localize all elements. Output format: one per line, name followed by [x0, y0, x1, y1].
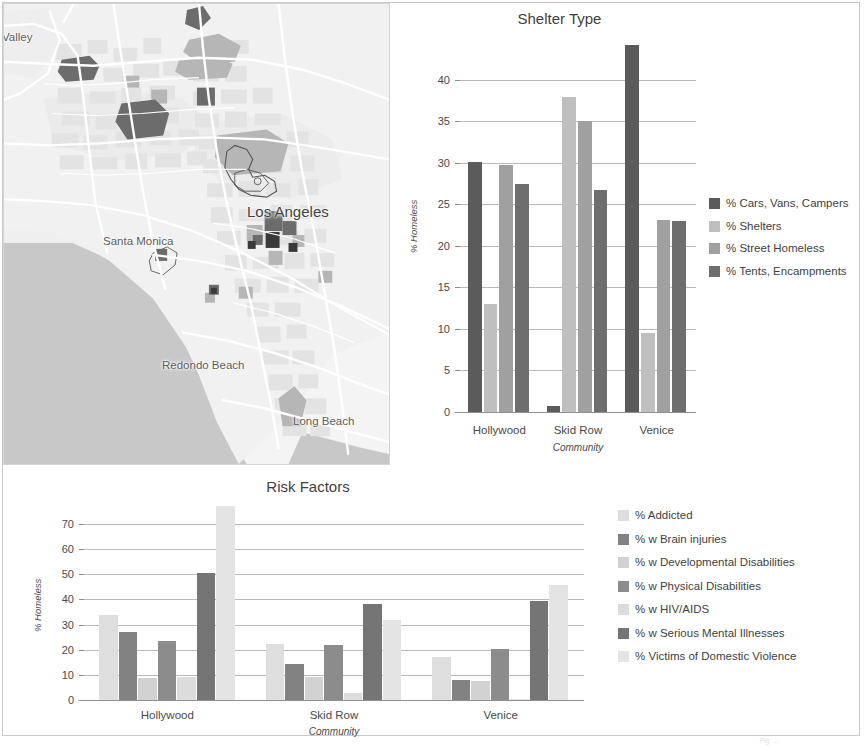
bar-risk-factors-1-3[interactable]: [324, 645, 343, 700]
legend-label: % w HIV/AIDS: [635, 604, 709, 616]
legend-swatch-icon: [618, 557, 629, 568]
legend-swatch-icon: [709, 221, 720, 232]
legend-label: % Victims of Domestic Violence: [635, 651, 796, 663]
map-panel[interactable]: Valley Los Angeles Santa Monica Redondo …: [3, 3, 390, 465]
bar-shelter-type-0-2[interactable]: [499, 165, 513, 412]
y-axis-tick: [455, 121, 460, 122]
bar-risk-factors-1-0[interactable]: [266, 644, 285, 700]
bar-risk-factors-1-6[interactable]: [383, 620, 402, 700]
bar-risk-factors-1-5[interactable]: [363, 604, 382, 700]
legend-label: % Shelters: [726, 221, 782, 233]
y-axis-tick: [455, 204, 460, 205]
bar-risk-factors-0-4[interactable]: [177, 677, 196, 700]
chart-shelter-type-title: Shelter Type: [397, 10, 722, 27]
legend-label: % Addicted: [635, 510, 693, 522]
bar-shelter-type-2-0[interactable]: [625, 45, 639, 412]
y-axis-tick: [79, 650, 84, 651]
y-axis-tick-label: 20: [418, 240, 450, 252]
y-axis-tick: [455, 80, 460, 81]
y-axis-tick: [455, 246, 460, 247]
legend-swatch-icon: [618, 651, 629, 662]
bar-risk-factors-0-6[interactable]: [216, 506, 235, 700]
chart-risk-factors-plot-area: 010203040506070HollywoodSkid RowVenice: [84, 504, 584, 700]
legend-item-risk-factors-6[interactable]: % Victims of Domestic Violence: [618, 651, 796, 663]
bar-risk-factors-2-6[interactable]: [549, 585, 568, 700]
y-axis-tick: [79, 675, 84, 676]
y-axis-tick: [79, 574, 84, 575]
bar-shelter-type-1-0[interactable]: [547, 406, 561, 412]
bar-risk-factors-2-5[interactable]: [530, 601, 549, 700]
y-axis-tick-label: 5: [418, 364, 450, 376]
chart-shelter-type-x-axis-label: Community: [460, 442, 696, 453]
y-axis-tick: [79, 625, 84, 626]
chart-shelter-type-legend: % Cars, Vans, Campers% Shelters% Street …: [709, 198, 849, 288]
y-axis-tick: [455, 163, 460, 164]
x-axis-category-label: Skid Row: [539, 424, 618, 436]
bar-shelter-type-2-2[interactable]: [657, 220, 671, 412]
bar-risk-factors-0-3[interactable]: [158, 641, 177, 700]
bar-shelter-type-1-3[interactable]: [594, 190, 608, 412]
legend-swatch-icon: [618, 581, 629, 592]
bar-shelter-type-1-1[interactable]: [562, 97, 576, 412]
bar-risk-factors-0-2[interactable]: [138, 678, 157, 700]
bar-risk-factors-0-1[interactable]: [119, 632, 138, 700]
bar-risk-factors-2-1[interactable]: [452, 680, 471, 700]
gridline: [84, 574, 584, 575]
bar-risk-factors-0-0[interactable]: [99, 615, 118, 700]
y-axis-tick-label: 0: [418, 406, 450, 418]
legend-item-risk-factors-0[interactable]: % Addicted: [618, 510, 796, 522]
legend-swatch-icon: [709, 243, 720, 254]
bar-risk-factors-0-5[interactable]: [197, 573, 216, 700]
legend-swatch-icon: [618, 604, 629, 615]
legend-swatch-icon: [618, 510, 629, 521]
chart-risk-factors-x-axis-label: Community: [84, 726, 584, 737]
y-axis-tick-label: 40: [418, 74, 450, 86]
bar-shelter-type-0-1[interactable]: [484, 304, 498, 412]
legend-label: % w Serious Mental Illnesses: [635, 628, 785, 640]
bar-shelter-type-1-2[interactable]: [578, 121, 592, 412]
y-axis-tick-label: 15: [418, 281, 450, 293]
legend-item-shelter-type-0[interactable]: % Cars, Vans, Campers: [709, 198, 849, 210]
legend-item-risk-factors-3[interactable]: % w Physical Disabilities: [618, 581, 796, 593]
bar-risk-factors-1-2[interactable]: [305, 677, 324, 700]
x-axis-line: [84, 700, 584, 701]
y-axis-tick-label: 60: [42, 543, 74, 555]
y-axis-tick-label: 70: [42, 518, 74, 530]
x-axis-category-label: Hollywood: [460, 424, 539, 436]
legend-item-shelter-type-3[interactable]: % Tents, Encampments: [709, 266, 849, 278]
y-axis-tick-label: 40: [42, 593, 74, 605]
chart-risk-factors-title: Risk Factors: [4, 478, 612, 495]
bar-shelter-type-2-3[interactable]: [672, 221, 686, 412]
legend-swatch-icon: [618, 628, 629, 639]
x-axis-line: [460, 412, 696, 413]
y-axis-tick-label: 0: [42, 694, 74, 706]
legend-label: % Street Homeless: [726, 243, 824, 255]
bar-risk-factors-2-4[interactable]: [510, 699, 529, 700]
legend-item-shelter-type-1[interactable]: % Shelters: [709, 221, 849, 233]
legend-item-risk-factors-2[interactable]: % w Developmental Disabilities: [618, 557, 796, 569]
legend-item-risk-factors-4[interactable]: % w HIV/AIDS: [618, 604, 796, 616]
bar-shelter-type-2-1[interactable]: [641, 333, 655, 412]
bar-shelter-type-0-3[interactable]: [515, 184, 529, 412]
y-axis-tick: [455, 370, 460, 371]
bar-risk-factors-2-0[interactable]: [432, 657, 451, 700]
y-axis-tick: [79, 599, 84, 600]
legend-item-shelter-type-2[interactable]: % Street Homeless: [709, 243, 849, 255]
legend-label: % w Brain injuries: [635, 534, 726, 546]
legend-item-risk-factors-1[interactable]: % w Brain injuries: [618, 534, 796, 546]
bar-risk-factors-1-4[interactable]: [344, 693, 363, 700]
chart-risk-factors-legend: % Addicted% w Brain injuries% w Developm…: [618, 510, 796, 675]
chart-shelter-type-plot-area: 0510152025303540HollywoodSkid RowVenice: [460, 38, 696, 412]
y-axis-tick-label: 10: [418, 323, 450, 335]
gridline: [460, 80, 696, 81]
y-axis-tick-label: 20: [42, 644, 74, 656]
bar-risk-factors-1-1[interactable]: [285, 664, 304, 700]
gridline: [84, 599, 584, 600]
bar-shelter-type-0-0[interactable]: [468, 162, 482, 412]
bar-risk-factors-2-3[interactable]: [491, 649, 510, 701]
bar-risk-factors-2-2[interactable]: [471, 681, 490, 700]
gridline: [84, 524, 584, 525]
legend-label: % w Physical Disabilities: [635, 581, 761, 593]
legend-item-risk-factors-5[interactable]: % w Serious Mental Illnesses: [618, 628, 796, 640]
figure-footnote: Fig. ...: [760, 737, 778, 744]
